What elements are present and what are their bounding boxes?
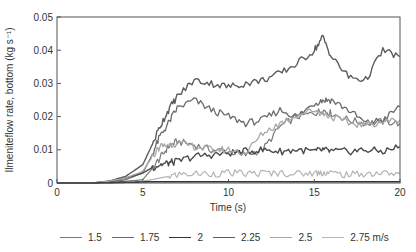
series-line-2 [57,145,400,183]
legend-item: 2.25 [213,232,260,243]
series-lines [57,35,400,183]
x-tick-label: 15 [309,187,321,198]
y-axis-label: Ilmeniteflow rate, bottom (kg s⁻¹) [4,27,15,172]
legend-item: 2.75 m/s [322,232,388,243]
legend: 1.51.7522.252.52.75 m/s [60,228,416,246]
legend-line-icon [169,237,191,238]
series-line-2.25 [57,35,400,183]
x-tick-label: 20 [394,187,406,198]
line-chart: 00.010.020.030.040.05 05101520 Time (s) … [0,0,416,252]
legend-label: 2.5 [298,232,312,243]
plot-frame [57,17,400,183]
legend-line-icon [322,237,344,238]
x-tick-label: 0 [54,187,60,198]
legend-label: 2.25 [241,232,260,243]
legend-label: 2 [197,232,203,243]
legend-line-icon [60,237,82,238]
legend-label: 2.75 m/s [350,232,388,243]
legend-item: 2.5 [270,232,312,243]
legend-line-icon [112,237,134,238]
legend-item: 1.5 [60,232,102,243]
legend-item: 1.75 [112,232,159,243]
legend-line-icon [213,237,235,238]
y-tick-label: 0.04 [34,45,54,56]
legend-line-icon [270,237,292,238]
x-tick-label: 5 [140,187,146,198]
y-tick-label: 0.01 [34,144,54,155]
x-axis-label: Time (s) [210,202,246,213]
y-tick-label: 0 [47,178,53,189]
y-tick-label: 0.05 [34,12,54,23]
y-tick-label: 0.03 [34,78,54,89]
y-tick-label: 0.02 [34,111,54,122]
x-tick-label: 10 [223,187,235,198]
legend-label: 1.75 [140,232,159,243]
series-line-1.5 [57,109,400,183]
legend-item: 2 [169,232,203,243]
legend-label: 1.5 [88,232,102,243]
